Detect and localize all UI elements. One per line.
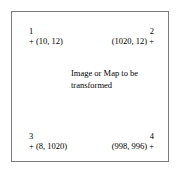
control-point-3-coordinate: + (8, 1020): [29, 141, 67, 152]
control-point-1-index: 1: [29, 26, 63, 36]
control-point-4-index: 4: [112, 131, 154, 141]
control-point-2: 2 (1020, 12) +: [112, 26, 154, 47]
control-point-2-coordinate: (1020, 12) +: [112, 36, 154, 47]
figure-root: 1 + (10, 12) 2 (1020, 12) + 3 + (8, 1020…: [0, 0, 179, 175]
control-point-1-coordinate: + (10, 12): [29, 36, 63, 47]
control-point-1: 1 + (10, 12): [29, 26, 63, 47]
map-extent-frame: 1 + (10, 12) 2 (1020, 12) + 3 + (8, 1020…: [11, 11, 169, 162]
figure-caption-line-2: transformed: [71, 80, 167, 92]
figure-caption: Image or Map to be transformed: [71, 68, 167, 91]
control-point-3-index: 3: [29, 131, 67, 141]
control-point-4: 4 (998, 996) +: [112, 131, 154, 152]
control-point-4-coordinate: (998, 996) +: [112, 141, 154, 152]
control-point-2-index: 2: [112, 26, 154, 36]
control-point-3: 3 + (8, 1020): [29, 131, 67, 152]
figure-caption-line-1: Image or Map to be: [71, 68, 167, 80]
